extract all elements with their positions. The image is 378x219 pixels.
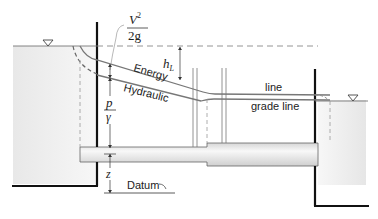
diagram-canvas: V2 2g hL p γ z Datum Energy Hydraulic li… xyxy=(0,0,378,219)
datum-label: Datum xyxy=(127,179,159,191)
pipe-large-section xyxy=(80,143,318,166)
right-reservoir-water xyxy=(318,100,366,185)
energy-line-label: line xyxy=(265,81,282,93)
piezometer-tubes xyxy=(193,68,226,147)
energy-line xyxy=(80,46,330,95)
velocity-head-leader xyxy=(110,25,124,70)
energy-grade-line-diagram: V2 2g hL p γ z Datum Energy Hydraulic li… xyxy=(0,0,378,219)
pressure-head-denominator: γ xyxy=(106,110,111,124)
left-free-surface-symbol xyxy=(43,40,53,46)
elevation-label: z xyxy=(105,167,111,181)
datum-hatch xyxy=(159,184,166,189)
hydraulic-grade-line-label: grade line xyxy=(251,100,299,112)
hydraulic-label: Hydraulic xyxy=(123,81,171,104)
pressure-head-numerator: p xyxy=(105,95,113,110)
velocity-head-denominator: 2g xyxy=(128,28,142,43)
velocity-head-numerator: V2 xyxy=(129,11,141,27)
